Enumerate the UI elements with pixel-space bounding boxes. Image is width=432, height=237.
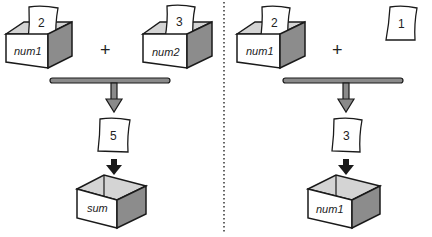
right-num1-card-value: 2	[271, 16, 278, 30]
diagram-canvas: 2 num1 + 3 num2 5 su	[0, 0, 432, 237]
left-num2-card-value: 3	[176, 15, 183, 29]
left-sum-variable-box: sum	[77, 175, 146, 228]
right-result-card: 3	[332, 118, 362, 152]
right-plus-operator: +	[332, 40, 343, 60]
left-combine-arrow	[50, 78, 170, 112]
left-sum-label: sum	[87, 202, 108, 214]
left-num2-variable-box: 3 num2	[143, 5, 212, 68]
right-num1-target-box: num1	[308, 175, 380, 228]
right-literal-card: 1	[386, 6, 417, 40]
left-result-card-value: 5	[110, 129, 117, 143]
right-literal-card-value: 1	[398, 17, 405, 31]
left-plus-operator: +	[100, 40, 111, 60]
left-num1-label: num1	[14, 45, 42, 57]
right-num1-variable-box: 2 num1	[237, 6, 305, 68]
right-num1-label: num1	[246, 45, 274, 57]
right-combine-arrow	[283, 78, 403, 112]
left-result-card: 5	[98, 118, 130, 152]
left-num2-label: num2	[152, 46, 180, 58]
right-target-label: num1	[316, 203, 344, 215]
right-store-arrow-icon	[338, 159, 354, 175]
left-store-arrow-icon	[106, 159, 122, 175]
left-num1-variable-box: 2 num1	[6, 6, 72, 68]
right-result-card-value: 3	[343, 129, 350, 143]
left-num1-card-value: 2	[38, 16, 45, 30]
